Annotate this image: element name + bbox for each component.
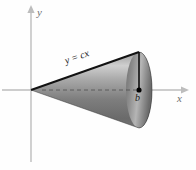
y-axis (27, 5, 34, 162)
y-axis-label: y (36, 6, 42, 18)
x-axis-arrow-icon (181, 87, 189, 94)
point-b-label: b (135, 92, 140, 103)
cone-figure: y x b y = cx (0, 0, 196, 170)
cone-solid (31, 52, 152, 128)
curve-equation-label: y = cx (62, 47, 91, 66)
figure-canvas: y x b y = cx (0, 0, 196, 170)
x-axis-label: x (176, 92, 182, 104)
y-axis-arrow-icon (27, 5, 34, 13)
